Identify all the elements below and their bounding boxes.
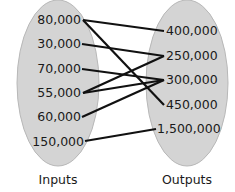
outputs-title: Outputs (162, 172, 212, 187)
output-label: 300,000 (166, 72, 218, 87)
mapping-diagram: 80,000 30,000 70,000 55,000 60,000 150,0… (0, 0, 235, 192)
input-label: 30,000 (37, 36, 81, 51)
input-label: 60,000 (37, 109, 81, 124)
line-80000-400000 (83, 20, 164, 31)
output-label: 1,500,000 (157, 121, 221, 136)
input-label: 150,000 (32, 134, 84, 149)
input-label: 55,000 (37, 85, 81, 100)
input-label: 80,000 (37, 12, 81, 27)
input-label: 70,000 (37, 61, 81, 76)
output-label: 250,000 (166, 48, 218, 63)
inputs-title: Inputs (39, 172, 78, 187)
output-label: 400,000 (166, 23, 218, 38)
line-150000-1500000 (85, 129, 156, 141)
output-label: 450,000 (166, 97, 218, 112)
